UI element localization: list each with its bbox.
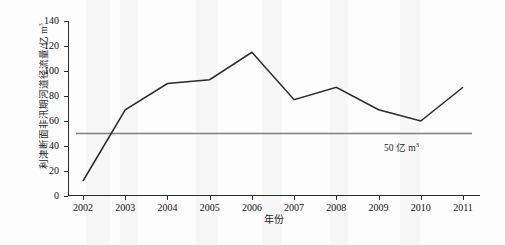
series-line-layer (68, 21, 480, 196)
x-axis-tick (336, 196, 337, 200)
x-axis-tick (463, 196, 464, 200)
x-axis-title: 年份 (68, 211, 480, 226)
x-axis-tick (167, 196, 168, 200)
x-axis-tick (379, 196, 380, 200)
y-axis-tick: 120 (64, 46, 68, 47)
x-axis-tick (252, 196, 253, 200)
chart-figure: 利津断面非汛期河道径流量/亿 m3 020406080100120140 200… (0, 0, 505, 245)
y-axis-tick: 40 (64, 146, 68, 147)
y-axis-tick-label: 100 (44, 65, 59, 77)
y-axis-tick-label: 80 (49, 90, 59, 102)
y-axis-tick: 20 (64, 171, 68, 172)
y-axis-line (68, 21, 69, 196)
y-axis-tick-label: 140 (44, 15, 59, 27)
threshold-annotation-label: 50 亿 m3 (384, 140, 419, 154)
y-axis-title: 利津断面非汛期河道径流量/亿 m3 (34, 0, 48, 196)
y-axis-tick: 60 (64, 121, 68, 122)
y-axis-tick-label: 120 (44, 40, 59, 52)
y-axis-tick: 100 (64, 71, 68, 72)
x-axis-line (68, 195, 480, 196)
y-axis-title-superscript: 3 (37, 23, 44, 26)
y-axis-tick: 140 (64, 21, 68, 22)
y-axis-tick-label: 40 (49, 140, 59, 152)
data-series-line (83, 52, 463, 181)
y-axis-tick: 80 (64, 96, 68, 97)
threshold-label-superscript: 3 (416, 140, 419, 147)
threshold-label-text: 50 亿 m (384, 143, 416, 153)
y-axis-tick-label: 0 (54, 190, 59, 202)
x-axis-tick (421, 196, 422, 200)
plot-area: 020406080100120140 200220032004200520062… (68, 21, 480, 196)
y-axis-tick-label: 20 (49, 165, 59, 177)
x-axis-tick (83, 196, 84, 200)
x-axis-tick (125, 196, 126, 200)
x-axis-tick (294, 196, 295, 200)
x-axis-tick (210, 196, 211, 200)
y-axis-tick-label: 60 (49, 115, 59, 127)
y-axis-tick: 0 (64, 196, 68, 197)
